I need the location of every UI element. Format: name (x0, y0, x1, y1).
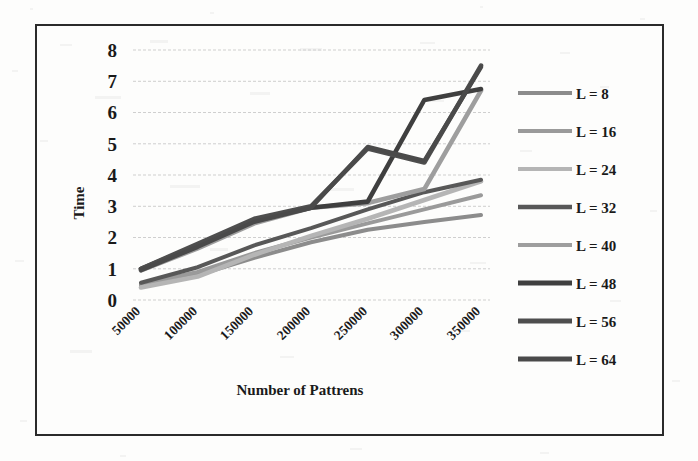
y-tick-4: 4 (108, 165, 118, 186)
line-chart: 8 7 6 5 4 3 2 1 0 Time 50000 100000 1500… (0, 0, 698, 461)
legend-item-L8[interactable]: L = 8 (518, 86, 609, 102)
legend-label-L8: L = 8 (576, 86, 609, 102)
legend-label-L32: L = 32 (576, 200, 616, 216)
legend: L = 8 L = 16 L = 24 L = 32 L = 40 L = 48… (518, 86, 617, 368)
legend-item-L16[interactable]: L = 16 (518, 124, 617, 140)
series-lines (141, 66, 481, 288)
legend-item-L24[interactable]: L = 24 (518, 162, 617, 178)
y-tick-3: 3 (108, 196, 118, 217)
y-axis-title: Time (71, 186, 87, 219)
legend-item-L48[interactable]: L = 48 (518, 276, 616, 292)
gridlines (133, 50, 490, 300)
legend-item-L56[interactable]: L = 56 (518, 314, 617, 330)
x-tick-250000: 250000 (331, 303, 370, 342)
legend-label-L48: L = 48 (576, 276, 616, 292)
legend-item-L64[interactable]: L = 64 (518, 352, 617, 368)
y-tick-5: 5 (108, 134, 118, 155)
y-tick-8: 8 (108, 40, 118, 61)
legend-item-L32[interactable]: L = 32 (518, 200, 616, 216)
x-tick-200000: 200000 (274, 303, 313, 342)
y-tick-1: 1 (108, 259, 118, 280)
y-tick-7: 7 (108, 71, 118, 92)
legend-item-L40[interactable]: L = 40 (518, 238, 616, 254)
x-tick-350000: 350000 (444, 303, 483, 342)
series-line-L32 (141, 180, 481, 283)
x-axis-tick-labels: 50000 100000 150000 200000 250000 300000… (109, 303, 484, 342)
x-tick-150000: 150000 (217, 303, 256, 342)
legend-label-L16: L = 16 (576, 124, 617, 140)
legend-label-L24: L = 24 (576, 162, 617, 178)
legend-label-L40: L = 40 (576, 238, 616, 254)
legend-label-L64: L = 64 (576, 352, 617, 368)
x-axis-title: Number of Pattrens (237, 382, 364, 398)
legend-label-L56: L = 56 (576, 314, 617, 330)
y-tick-2: 2 (108, 227, 118, 248)
x-tick-300000: 300000 (387, 303, 426, 342)
y-tick-0: 0 (108, 290, 118, 311)
y-axis-tick-labels: 8 7 6 5 4 3 2 1 0 (108, 40, 118, 311)
y-tick-6: 6 (108, 102, 118, 123)
x-tick-100000: 100000 (161, 303, 200, 342)
